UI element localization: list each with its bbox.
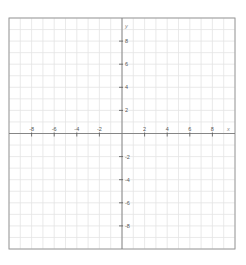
- x-tick-label: 4: [166, 126, 169, 132]
- y-tick-label: 6: [125, 61, 128, 67]
- y-tick-label: -8: [125, 223, 130, 229]
- x-tick-label: -2: [97, 126, 102, 132]
- y-tick-label: 8: [125, 38, 128, 44]
- x-tick-label: 6: [188, 126, 191, 132]
- y-tick-label: -2: [125, 154, 130, 160]
- x-tick-label: 2: [143, 126, 146, 132]
- x-tick-label: -6: [52, 126, 57, 132]
- x-axis-label: x: [226, 126, 230, 132]
- y-tick-label: -4: [125, 177, 130, 183]
- x-tick-label: -4: [74, 126, 79, 132]
- plot-background: [0, 0, 246, 265]
- y-tick-label: -6: [125, 200, 130, 206]
- coordinate-plane: -8-6-4-22468 8642-2-4-6-8 x y: [0, 0, 246, 265]
- y-tick-label: 2: [125, 107, 128, 113]
- x-tick-label: 8: [211, 126, 214, 132]
- y-tick-label: 4: [125, 84, 128, 90]
- x-tick-label: -8: [29, 126, 34, 132]
